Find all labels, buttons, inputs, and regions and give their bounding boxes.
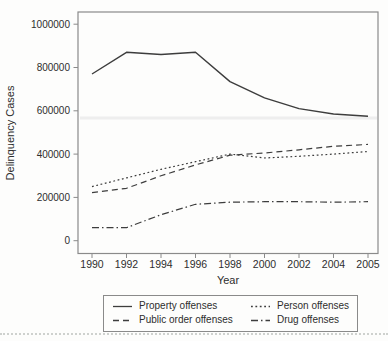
plot-border	[78, 12, 378, 254]
x-axis-tick-label: 2004	[322, 258, 346, 270]
legend-entry-public-order-offenses: Public order offenses	[112, 314, 250, 326]
y-axis-title: Delinquency Cases	[4, 85, 16, 180]
dashdot-line-swatch-icon	[250, 316, 271, 325]
y-axis-tick-label: 400000	[37, 149, 71, 160]
x-axis-tick-label: 1996	[184, 258, 208, 270]
series-line-person-offenses	[92, 152, 368, 187]
dotted-line-swatch-icon	[250, 302, 271, 311]
y-axis-tick-label: 600000	[37, 105, 71, 116]
legend-entry-drug-offenses: Drug offenses	[250, 314, 352, 326]
legend-label: Drug offenses	[277, 314, 339, 326]
y-axis-tick-label: 200000	[37, 192, 71, 203]
series-line-public-order-offenses	[92, 144, 368, 192]
legend-label: Public order offenses	[139, 314, 233, 326]
y-axis-tick-label: 0	[64, 235, 70, 246]
figure-page: 0200000400000600000800000100000019901992…	[0, 0, 388, 341]
x-axis-tick-label: 1998	[218, 258, 242, 270]
x-axis-tick-label: 1994	[149, 258, 173, 270]
page-separator-dotted-line	[0, 333, 388, 335]
x-axis-tick-label: 1990	[80, 258, 104, 270]
legend-entry-person-offenses: Person offenses	[250, 300, 352, 312]
x-axis-title: Year	[217, 274, 240, 286]
series-line-drug-offenses	[92, 202, 368, 228]
x-axis-tick-label: 2000	[253, 258, 277, 270]
legend-entry-property-offenses: Property offenses	[112, 300, 250, 312]
x-axis-tick-label: 1992	[115, 258, 139, 270]
delinquency-cases-line-chart: 0200000400000600000800000100000019901992…	[0, 0, 388, 292]
x-axis-tick-label: 2005	[356, 258, 380, 270]
solid-line-swatch-icon	[112, 302, 133, 311]
y-axis-tick-label: 1000000	[31, 19, 70, 30]
series-line-property-offenses	[92, 52, 368, 116]
legend-label: Person offenses	[277, 300, 349, 312]
chart-legend: Property offenses Person offenses Public…	[103, 295, 358, 332]
dashed-line-swatch-icon	[112, 316, 133, 325]
legend-label: Property offenses	[139, 300, 217, 312]
y-axis-tick-label: 800000	[37, 62, 71, 73]
x-axis-tick-label: 2002	[287, 258, 311, 270]
